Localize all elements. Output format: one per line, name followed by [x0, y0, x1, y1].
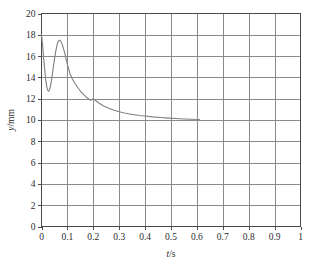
y-tick-label: 16: [26, 52, 36, 62]
x-tick-label: 0.8: [243, 232, 255, 242]
y-tick-label: 2: [31, 201, 36, 211]
y-tick-label: 18: [26, 30, 36, 40]
y-tick-label: 14: [26, 73, 36, 83]
y-tick-label: 0: [31, 222, 36, 232]
y-tick-label: 6: [31, 158, 36, 168]
y-axis-title: y/mm: [6, 109, 16, 132]
x-tick-label: 0.7: [217, 232, 229, 242]
chart-background: [0, 0, 313, 263]
x-tick-label: 0.5: [165, 232, 177, 242]
y-tick-label: 20: [26, 9, 36, 19]
y-tick-label: 8: [31, 137, 36, 147]
line-chart: 00.10.20.30.40.50.60.70.80.91 0246810121…: [0, 0, 313, 263]
x-tick-label: 0.1: [61, 232, 73, 242]
x-tick-label: 0.6: [191, 232, 203, 242]
chart-figure: 00.10.20.30.40.50.60.70.80.91 0246810121…: [0, 0, 313, 263]
x-axis-title: t/s: [167, 249, 176, 259]
y-tick-label: 4: [31, 179, 36, 189]
x-tick-label: 0.2: [87, 232, 99, 242]
x-tick-label: 0: [39, 232, 44, 242]
y-tick-label: 12: [26, 94, 36, 104]
x-tick-label: 0.9: [269, 232, 281, 242]
x-tick-label: 0.4: [139, 232, 151, 242]
x-tick-label: 0.3: [113, 232, 125, 242]
y-tick-label: 10: [26, 115, 36, 125]
x-tick-label: 1: [298, 232, 303, 242]
